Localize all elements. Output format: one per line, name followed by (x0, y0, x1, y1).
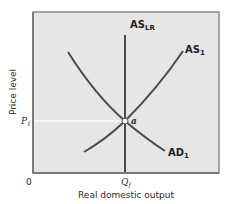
equilibrium-point (122, 118, 128, 124)
point-a-label: a (131, 116, 137, 126)
x-axis-title: Real domestic output (78, 190, 174, 200)
p1-tick-label: P1 (20, 116, 31, 127)
qf-tick-label: Qf (121, 177, 132, 189)
origin-label: 0 (26, 177, 32, 187)
y-axis-title: Price level (8, 69, 18, 115)
aggregate-supply-demand-chart: a ASLR AS1 AD1 Price level P1 0 Qf Real … (0, 0, 226, 204)
